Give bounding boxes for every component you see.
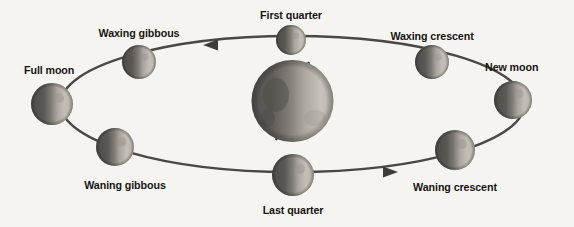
moon-edge-shade — [435, 130, 475, 170]
moon-last-quarter — [272, 154, 314, 196]
moon-phase-diagram: New moon Waxing crescent First quarter W… — [0, 0, 574, 227]
moon-waxing-gibbous — [122, 45, 156, 79]
moon-waning-crescent — [435, 130, 475, 170]
label-last-quarter: Last quarter — [263, 205, 324, 217]
moon-edge-shade — [122, 45, 156, 79]
moon-new-moon — [494, 81, 532, 119]
label-new-moon: New moon — [485, 62, 538, 74]
moon-waxing-crescent — [415, 45, 449, 79]
moon-full-moon — [31, 83, 73, 125]
moon-first-quarter — [276, 25, 306, 55]
moon-waning-gibbous — [96, 128, 134, 166]
moon-edge-shade — [494, 81, 532, 119]
moon-edge-shade — [31, 83, 73, 125]
label-waning-crescent: Waning crescent — [413, 182, 497, 194]
moon-edge-shade — [415, 45, 449, 79]
label-waxing-gibbous: Waxing gibbous — [99, 28, 180, 40]
label-full-moon: Full moon — [24, 65, 74, 77]
label-first-quarter: First quarter — [260, 10, 322, 22]
label-waning-gibbous: Waning gibbous — [84, 180, 165, 192]
moon-edge-shade — [276, 25, 306, 55]
label-waxing-crescent: Waxing crescent — [390, 31, 473, 43]
moon-edge-shade — [272, 154, 314, 196]
earth-terminator-shade — [252, 60, 334, 142]
moon-edge-shade — [96, 128, 134, 166]
earth-body — [252, 60, 334, 142]
